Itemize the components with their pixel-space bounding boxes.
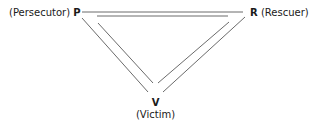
edge-r-v-inner	[158, 22, 229, 83]
victim-letter: V	[0, 97, 310, 109]
node-rescuer: R (Rescuer)	[250, 7, 309, 19]
persecutor-role: (Persecutor)	[9, 7, 70, 18]
edge-p-v-inner	[98, 23, 153, 83]
rescuer-role: (Rescuer)	[261, 7, 309, 18]
node-victim: V (Victim)	[0, 97, 310, 121]
edge-p-v-outer	[82, 18, 148, 92]
victim-role: (Victim)	[0, 109, 310, 121]
persecutor-letter: P	[73, 7, 80, 18]
node-persecutor: (Persecutor) P	[9, 7, 81, 19]
edge-r-v-outer	[163, 17, 245, 92]
rescuer-letter: R	[250, 7, 258, 18]
